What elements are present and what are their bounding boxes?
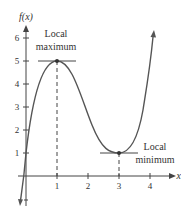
y-tick-3: 3: [15, 102, 20, 112]
x-axis-title: x: [176, 170, 181, 181]
curve-arrow-down-icon: [18, 199, 23, 206]
function-graph: 1 2 3 4 5 6 1 2 3 4 f(x) x Local maximum…: [0, 0, 181, 211]
local-max-point: [55, 59, 59, 63]
y-tick-5: 5: [15, 56, 20, 66]
x-tick-2: 2: [86, 181, 91, 191]
y-tick-6: 6: [15, 33, 20, 43]
local-max-label-line1: Local: [45, 28, 68, 39]
x-tick-4: 4: [148, 181, 153, 191]
local-max-label-line2: maximum: [36, 41, 77, 52]
y-axis-title: f(x): [19, 11, 34, 23]
y-tick-1: 1: [15, 148, 20, 158]
y-tick-4: 4: [15, 79, 20, 89]
x-tick-1: 1: [55, 181, 60, 191]
x-tick-3: 3: [117, 181, 122, 191]
y-axis-arrow-icon: [23, 25, 29, 32]
local-min-point: [117, 151, 121, 155]
y-tick-2: 2: [15, 125, 20, 135]
curve-arrow-up-icon: [151, 30, 157, 38]
local-min-label-line2: minimum: [136, 154, 175, 165]
chart-svg: 1 2 3 4 5 6 1 2 3 4 f(x) x Local maximum…: [0, 0, 181, 211]
local-min-label-line1: Local: [144, 141, 167, 152]
x-axis-arrow-icon: [169, 173, 176, 179]
